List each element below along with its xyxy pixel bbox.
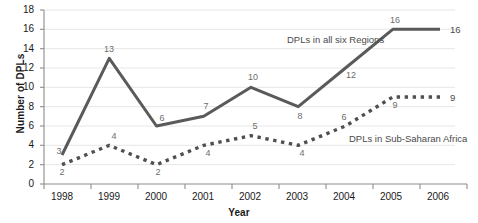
y-tick-label: 18 — [12, 4, 34, 15]
series-annotation-sub-saharan: DPLs in Sub-Saharan Africa — [349, 133, 467, 144]
value-label-all-regions: 13 — [99, 44, 119, 54]
value-label-sub-saharan: 4 — [104, 131, 124, 141]
y-tick-label: 14 — [12, 43, 34, 54]
value-label-all-regions: 7 — [196, 101, 216, 111]
value-label-all-regions: 10 — [243, 72, 263, 82]
x-tick-label: 1998 — [40, 191, 84, 202]
y-tick-label: 4 — [12, 139, 34, 150]
y-tick-label: 8 — [12, 101, 34, 112]
y-axis — [40, 10, 44, 184]
value-label-sub-saharan: 4 — [292, 148, 312, 158]
x-tick-label: 2006 — [416, 191, 460, 202]
value-label-sub-saharan: 2 — [148, 167, 168, 177]
value-label-sub-saharan: 9 — [385, 100, 405, 110]
x-tick-label: 2000 — [134, 191, 178, 202]
y-tick-label: 10 — [12, 81, 34, 92]
series-annotation-all-regions: DPLs in all six Regions — [287, 34, 384, 45]
y-tick-label: 6 — [12, 120, 34, 131]
value-label-sub-saharan: 4 — [198, 148, 218, 158]
x-tick-label: 2002 — [228, 191, 272, 202]
value-label-sub-saharan: 2 — [52, 167, 72, 177]
x-tick-label: 2001 — [181, 191, 225, 202]
y-tick-label: 2 — [12, 159, 34, 170]
value-label-all-regions: 8 — [290, 111, 310, 121]
x-tick-label: 2003 — [275, 191, 319, 202]
x-axis — [44, 184, 467, 189]
value-label-all-regions: 12 — [341, 70, 361, 80]
end-value-label-sub-saharan: 9 — [450, 92, 455, 103]
x-tick-label: 2004 — [322, 191, 366, 202]
value-label-all-regions: 6 — [152, 113, 172, 123]
x-tick-label: 1999 — [87, 191, 131, 202]
x-tick-label: 2005 — [369, 191, 413, 202]
line-chart: Number of DPLs Year 0 2 4 6 8 10 12 14 1… — [0, 0, 478, 223]
end-value-label-all-regions: 16 — [450, 24, 461, 35]
plot-area — [0, 0, 478, 223]
y-tick-label: 16 — [12, 23, 34, 34]
value-label-sub-saharan: 5 — [245, 121, 265, 131]
value-label-all-regions: 3 — [49, 146, 69, 156]
value-label-all-regions: 16 — [385, 15, 405, 25]
y-tick-label: 0 — [12, 178, 34, 189]
y-tick-label: 12 — [12, 62, 34, 73]
value-label-sub-saharan: 6 — [334, 112, 354, 122]
x-axis-title: Year — [0, 207, 478, 218]
